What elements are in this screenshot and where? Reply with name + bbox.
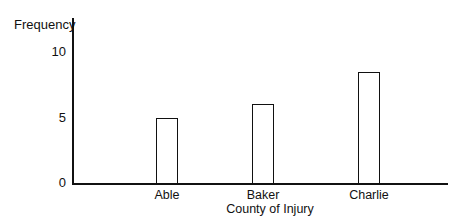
y-axis-label: Frequency (14, 17, 75, 32)
bar-charlie (358, 72, 380, 183)
x-axis-label: County of Injury (205, 202, 335, 216)
bar-baker (252, 104, 274, 183)
x-tick-able: Able (127, 188, 207, 202)
y-tick-10: 10 (36, 44, 66, 59)
y-tick-0: 0 (36, 175, 66, 190)
y-tick-5: 5 (36, 110, 66, 125)
y-axis-line (72, 18, 74, 184)
x-tick-charlie: Charlie (329, 188, 409, 202)
x-axis-line (72, 183, 448, 185)
x-tick-baker: Baker (223, 188, 303, 202)
bar-able (156, 118, 178, 184)
